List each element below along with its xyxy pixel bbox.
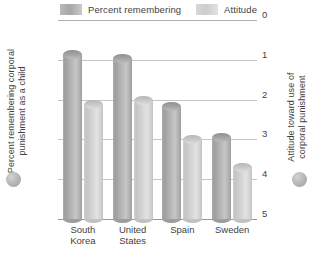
legend-swatch-attitude — [196, 4, 218, 15]
bar-south-korea-series-1 — [84, 104, 103, 219]
legend-item-attitude: Attitude — [196, 2, 257, 16]
x-axis-label-line1: Sweden — [199, 224, 265, 235]
legend-item-percent-remembering: Percent remembering — [60, 2, 181, 16]
bar-cap — [84, 100, 103, 109]
bar-body — [183, 139, 202, 219]
bar-sweden-series-1 — [233, 167, 252, 219]
gridline-80 — [58, 60, 257, 61]
x-axis-label-line2: States — [100, 235, 166, 246]
y-axis-right-title-line2: corporal punishment — [297, 42, 308, 192]
x-axis-label-sweden: Sweden — [199, 224, 265, 235]
bar-body — [84, 104, 103, 219]
y-axis-left-title-line2: punishment as a child — [17, 36, 28, 186]
y-axis-right-tick-4: 4 — [262, 168, 286, 179]
legend-label-attitude: Attitude — [224, 4, 257, 15]
bar-spain-series-0 — [162, 106, 181, 219]
bar-cap — [162, 102, 181, 111]
bar-sweden-series-0 — [212, 137, 231, 219]
bar-body — [63, 54, 82, 219]
bar-cap — [134, 96, 153, 105]
bar-united-states-series-1 — [134, 100, 153, 219]
right-axis-marker-dot — [292, 172, 307, 187]
bar-south-korea-series-0 — [63, 54, 82, 219]
gridline-100 — [58, 20, 257, 21]
y-axis-left-title: Percent remembering corporal punishment … — [6, 36, 28, 186]
bar-cap — [63, 50, 82, 59]
y-axis-right-title-line1: Attitude toward use of — [286, 42, 297, 192]
bar-united-states-series-0 — [113, 58, 132, 219]
chart-container: Percent remembering Attitude Percent rem… — [0, 0, 315, 263]
bar-body — [212, 137, 231, 219]
y-axis-right-tick-2: 2 — [262, 89, 286, 100]
bar-cap — [113, 54, 132, 63]
bar-body — [113, 58, 132, 219]
bar-spain-series-1 — [183, 139, 202, 219]
y-axis-right-tick-0: 0 — [262, 9, 286, 20]
y-axis-right-title: Attitude toward use of corporal punishme… — [286, 42, 308, 192]
left-axis-marker-dot — [6, 172, 21, 187]
legend-label-percent-remembering: Percent remembering — [88, 4, 181, 15]
bar-body — [233, 167, 252, 219]
y-axis-right-tick-3: 3 — [262, 128, 286, 139]
y-axis-right-tick-5: 5 — [262, 208, 286, 219]
plot-area — [58, 20, 257, 219]
y-axis-right-tick-1: 1 — [262, 49, 286, 60]
bar-body — [134, 100, 153, 219]
bar-body — [162, 106, 181, 219]
legend-swatch-percent-remembering — [60, 4, 82, 15]
y-axis-left-title-line1: Percent remembering corporal — [6, 36, 17, 186]
